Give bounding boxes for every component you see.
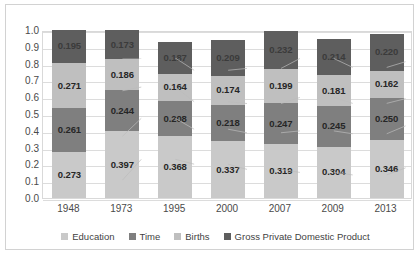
bar-segment-value-label: 0.173 [105, 40, 139, 50]
legend-item-label: Gross Private Domestic Product [235, 231, 370, 242]
bar-segment-value-label: 0.271 [52, 81, 86, 91]
y-axis-tick-label: 0.0 [9, 194, 39, 204]
legend-item[interactable]: Gross Private Domestic Product [224, 231, 370, 242]
bar-segment[interactable]: 0.218 [211, 105, 245, 142]
bar-segment[interactable]: 0.195 [52, 30, 86, 63]
bar-segment[interactable]: 0.214 [317, 39, 351, 75]
bar-segment[interactable]: 0.208 [158, 101, 192, 136]
bar-segment-value-label: 0.164 [158, 82, 192, 92]
bar-segment[interactable]: 0.304 [317, 147, 351, 198]
bar-segment-value-label: 0.337 [211, 165, 245, 175]
bar-segment-value-label: 0.397 [105, 160, 139, 170]
y-axis: 1.00.90.80.70.60.50.40.30.20.10.0 [6, 31, 39, 199]
bar-segment[interactable]: 0.319 [264, 144, 298, 198]
legend-item-label: Births [185, 231, 209, 242]
legend-swatch-icon [174, 233, 181, 240]
bar-group[interactable]: 0.3680.2080.1640.187 [158, 30, 192, 198]
bar-segment-value-label: 0.209 [211, 53, 245, 63]
bar-segment[interactable]: 0.187 [158, 42, 192, 73]
y-axis-tick-label: 0.9 [9, 43, 39, 53]
x-axis-tick-label: 1995 [148, 203, 200, 215]
bar-segment-value-label: 0.247 [264, 119, 298, 129]
bar-segment[interactable]: 0.245 [317, 106, 351, 147]
legend-item[interactable]: Education [61, 231, 114, 242]
bar-segment[interactable]: 0.181 [317, 75, 351, 105]
bar-group[interactable]: 0.3970.2440.1860.173 [105, 30, 139, 198]
bar-segment[interactable]: 0.271 [52, 63, 86, 109]
x-axis-tick-label: 2013 [360, 203, 412, 215]
legend-item[interactable]: Births [174, 231, 209, 242]
bar-segment-value-label: 0.218 [211, 118, 245, 128]
legend-swatch-icon [224, 233, 231, 240]
x-axis-tick-label: 2009 [307, 203, 359, 215]
legend-item-label: Education [72, 231, 114, 242]
bar-segment[interactable]: 0.162 [370, 71, 404, 98]
y-axis-tick-label: 0.3 [9, 144, 39, 154]
bar-segment-value-label: 0.245 [317, 121, 351, 131]
bar-segment-value-label: 0.186 [105, 70, 139, 80]
bar-group[interactable]: 0.3370.2180.1740.209 [211, 30, 245, 198]
y-axis-tick-label: 0.7 [9, 76, 39, 86]
bar-segment-value-label: 0.187 [158, 53, 192, 63]
bar-segment-value-label: 0.261 [52, 125, 86, 135]
bar-segment-value-label: 0.220 [370, 47, 404, 57]
plot-area: 0.2730.2610.2710.1950.3970.2440.1860.173… [42, 31, 412, 199]
bar-segment[interactable]: 0.199 [264, 69, 298, 102]
x-axis-tick-label: 2000 [201, 203, 253, 215]
bar-segment[interactable]: 0.232 [264, 31, 298, 70]
bar-segment-value-label: 0.304 [317, 167, 351, 177]
bar-group[interactable]: 0.3460.2500.1620.220 [370, 30, 404, 198]
bar-segment-value-label: 0.181 [317, 86, 351, 96]
bar-segment[interactable]: 0.244 [105, 90, 139, 131]
chart-figure: 1.00.90.80.70.60.50.40.30.20.10.0 0.2730… [0, 0, 419, 255]
bar-segment-value-label: 0.250 [370, 114, 404, 124]
bar-segment[interactable]: 0.397 [105, 131, 139, 198]
bar-group[interactable]: 0.3040.2450.1810.214 [317, 30, 351, 198]
y-axis-tick-label: 0.4 [9, 127, 39, 137]
bar-segment-value-label: 0.195 [52, 41, 86, 51]
x-axis: 1948197319952000200720092013 [42, 203, 412, 219]
bar-segment-value-label: 0.273 [52, 170, 86, 180]
bar-segment-value-label: 0.244 [105, 106, 139, 116]
y-axis-tick-label: 0.6 [9, 93, 39, 103]
chart-legend: EducationTimeBirthsGross Private Domesti… [11, 227, 419, 245]
bar-segment[interactable]: 0.250 [370, 98, 404, 140]
bar-segment[interactable]: 0.346 [370, 140, 404, 198]
bar-group[interactable]: 0.2730.2610.2710.195 [52, 30, 86, 198]
x-axis-tick-label: 2007 [254, 203, 306, 215]
bar-segment[interactable]: 0.209 [211, 40, 245, 75]
bar-segment[interactable]: 0.186 [105, 59, 139, 90]
bar-segment-value-label: 0.208 [158, 114, 192, 124]
bar-segment[interactable]: 0.173 [105, 30, 139, 59]
bar-segment-value-label: 0.214 [317, 52, 351, 62]
bar-segment-value-label: 0.232 [264, 45, 298, 55]
legend-swatch-icon [61, 233, 68, 240]
y-axis-tick-label: 0.5 [9, 110, 39, 120]
bar-segment-value-label: 0.162 [370, 79, 404, 89]
y-axis-tick-label: 0.1 [9, 177, 39, 187]
x-axis-tick-label: 1948 [42, 203, 94, 215]
bar-segment[interactable]: 0.220 [370, 34, 404, 71]
bar-segment[interactable]: 0.273 [52, 152, 86, 198]
bar-segment[interactable]: 0.261 [52, 108, 86, 152]
y-axis-tick-label: 0.2 [9, 160, 39, 170]
y-axis-tick-label: 0.8 [9, 60, 39, 70]
legend-item[interactable]: Time [129, 231, 161, 242]
bar-segment-value-label: 0.199 [264, 81, 298, 91]
gridline [43, 200, 411, 201]
bar-segment-value-label: 0.319 [264, 166, 298, 176]
bar-segment[interactable]: 0.368 [158, 136, 192, 198]
legend-swatch-icon [129, 233, 136, 240]
bar-segment-value-label: 0.368 [158, 162, 192, 172]
bar-segment[interactable]: 0.337 [211, 141, 245, 198]
bar-segment[interactable]: 0.164 [158, 74, 192, 102]
legend-item-label: Time [140, 231, 161, 242]
x-axis-tick-label: 1973 [95, 203, 147, 215]
y-axis-tick-label: 1.0 [9, 26, 39, 36]
bar-segment[interactable]: 0.247 [264, 103, 298, 144]
chart-plot-frame: 1.00.90.80.70.60.50.40.30.20.10.0 0.2730… [5, 4, 414, 250]
bar-segment-value-label: 0.346 [370, 164, 404, 174]
bar-segment-value-label: 0.174 [211, 85, 245, 95]
bar-segment[interactable]: 0.174 [211, 76, 245, 105]
bar-group[interactable]: 0.3190.2470.1990.232 [264, 30, 298, 198]
